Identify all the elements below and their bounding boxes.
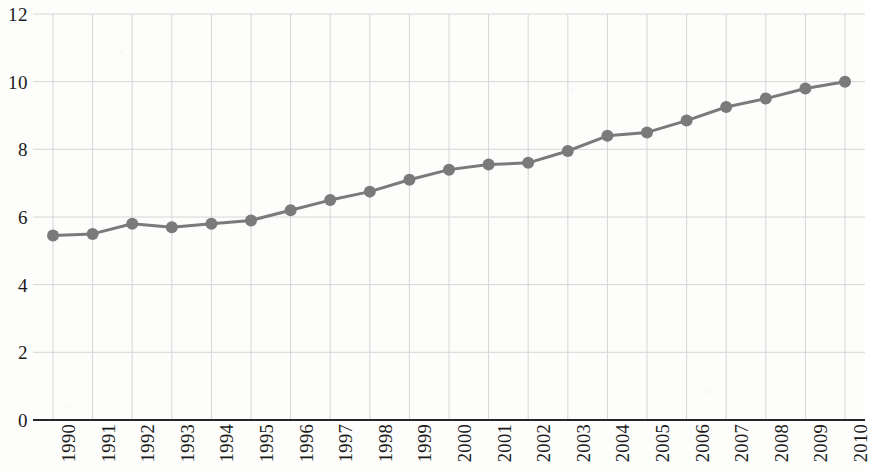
x-tick-label: 2008 (773, 424, 792, 462)
x-tick-label: 1992 (139, 424, 158, 462)
x-tick-label: 2009 (812, 424, 831, 462)
data-point-marker (562, 145, 574, 157)
data-point-marker (285, 204, 297, 216)
x-axis-line (33, 419, 865, 421)
plot-area (33, 14, 865, 420)
data-series (33, 14, 865, 420)
x-tick-label: 1995 (258, 424, 277, 462)
x-tick-label: 1990 (60, 424, 79, 462)
x-axis-labels: 1990199119921993199419951996199719981999… (33, 424, 865, 472)
x-tick-label: 1997 (337, 424, 356, 462)
data-point-marker (364, 186, 376, 198)
data-point-marker (720, 101, 732, 113)
x-tick-label: 2006 (694, 424, 713, 462)
data-point-marker (324, 194, 336, 206)
data-point-marker (166, 221, 178, 233)
data-point-marker (641, 126, 653, 138)
x-tick-label: 2003 (575, 424, 594, 462)
x-tick-label: 2000 (456, 424, 475, 462)
data-point-marker (681, 115, 693, 127)
data-point-marker (483, 159, 495, 171)
data-point-marker (47, 230, 59, 242)
x-tick-label: 1996 (298, 424, 317, 462)
y-axis-labels: 024681012 (0, 0, 28, 434)
x-tick-label: 1994 (218, 424, 237, 462)
x-tick-label: 2002 (535, 424, 554, 462)
data-point-marker (126, 218, 138, 230)
y-tick-label: 4 (0, 275, 28, 294)
x-tick-label: 2004 (614, 424, 633, 462)
data-point-marker (760, 93, 772, 105)
x-tick-label: 1999 (416, 424, 435, 462)
y-tick-label: 2 (0, 343, 28, 362)
data-point-marker (205, 218, 217, 230)
y-tick-label: 10 (0, 72, 28, 91)
x-tick-label: 2007 (733, 424, 752, 462)
data-point-marker (522, 157, 534, 169)
x-tick-label: 2010 (852, 424, 871, 462)
x-tick-label: 2001 (496, 424, 515, 462)
data-point-marker (87, 228, 99, 240)
data-point-marker (601, 130, 613, 142)
y-tick-label: 8 (0, 140, 28, 159)
y-tick-label: 12 (0, 5, 28, 24)
x-tick-label: 1993 (179, 424, 198, 462)
data-point-marker (839, 76, 851, 88)
data-point-marker (245, 214, 257, 226)
x-tick-label: 1991 (100, 424, 119, 462)
x-tick-label: 2005 (654, 424, 673, 462)
data-point-marker (443, 164, 455, 176)
y-tick-label: 6 (0, 208, 28, 227)
x-tick-label: 1998 (377, 424, 396, 462)
data-point-marker (403, 174, 415, 186)
y-tick-label: 0 (0, 411, 28, 430)
data-point-marker (799, 82, 811, 94)
